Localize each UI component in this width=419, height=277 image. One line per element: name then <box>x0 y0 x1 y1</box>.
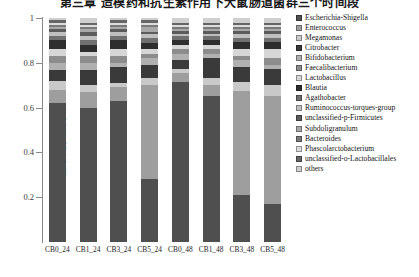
bar-segment <box>233 67 250 83</box>
bar-CB0_24 <box>49 18 66 242</box>
legend-swatch <box>296 15 302 21</box>
legend-swatch <box>296 55 302 61</box>
bar-segment <box>141 85 158 179</box>
y-tick-label: 0.6 <box>0 103 34 113</box>
bar-segment <box>264 204 281 242</box>
legend-swatch <box>296 105 302 111</box>
legend-item[interactable]: unclassified-p-Firmicutes <box>296 113 419 123</box>
y-tick-label: 0.8 <box>0 58 34 68</box>
y-tick-label: 0.4 <box>0 147 34 157</box>
legend-item[interactable]: Ruminococcus-torques-group <box>296 103 419 113</box>
legend-swatch <box>296 45 302 51</box>
bar-segment <box>141 179 158 242</box>
legend-item[interactable]: Faecalibacterium <box>296 63 419 73</box>
bar-segment <box>80 56 97 63</box>
bar-segment <box>49 103 66 242</box>
plot-area: 相对丰度（属水平） <box>42 18 288 242</box>
bar-segment <box>203 96 220 242</box>
legend-item[interactable]: Blautia <box>296 83 419 93</box>
bar-segment <box>80 92 97 108</box>
bar-segment <box>203 85 220 96</box>
bar-segment <box>80 85 97 92</box>
bar-segment <box>110 87 127 100</box>
legend-swatch <box>296 146 302 152</box>
bar-segment <box>49 70 66 81</box>
bar-segment <box>203 78 220 85</box>
bar-CB3_24 <box>110 18 127 242</box>
chart-title: 第三章 造模药和抗生素作用下大鼠肠道菌群三个时间段 <box>0 0 419 10</box>
bar-CB5_48 <box>264 18 281 242</box>
bar-segment <box>172 73 189 82</box>
bar-segment <box>233 49 250 56</box>
legend-swatch <box>296 75 302 81</box>
legend-swatch <box>296 25 302 31</box>
legend-swatch <box>296 95 302 101</box>
legend-item[interactable]: others <box>296 164 419 174</box>
legend-label: Subdoligranulum <box>305 124 358 134</box>
legend-label: Bacteroides <box>305 134 341 144</box>
x-axis-labels: CB0_24CB1_24CB3_24CB5_24CB0_48CB1_48CB3_… <box>42 245 288 259</box>
legend-item[interactable]: Bifidobacterium <box>296 53 419 63</box>
bar-segment <box>141 43 158 50</box>
bar-segment <box>233 60 250 67</box>
y-tick-label: 1 <box>0 13 34 23</box>
bar-segment <box>110 56 127 63</box>
bar-segment <box>264 42 281 49</box>
bar-CB0_48 <box>172 18 189 242</box>
legend-label: Faecalibacterium <box>305 63 357 73</box>
legend-item[interactable]: unclassified-o-Lactobacillales <box>296 154 419 164</box>
legend-label: Megamonas <box>305 33 342 43</box>
x-tick-label-CB3_48: CB3_48 <box>230 245 255 254</box>
bar-segment <box>172 54 189 61</box>
legend-item[interactable]: Megamonas <box>296 33 419 43</box>
bar-segment <box>141 58 158 65</box>
bar-segment <box>80 70 97 86</box>
legend-swatch <box>296 156 302 162</box>
x-tick-label-CB5_24: CB5_24 <box>137 245 162 254</box>
chart-legend: Escherichia-ShigellaEnterococcusMegamona… <box>296 13 419 174</box>
bar-segment <box>264 85 281 96</box>
bar-segment <box>233 42 250 49</box>
legend-item[interactable]: Phascolarctobacterium <box>296 144 419 154</box>
bar-segment <box>110 67 127 83</box>
legend-label: Bifidobacterium <box>305 53 355 63</box>
legend-label: others <box>305 164 324 174</box>
legend-label: Agathobacter <box>305 93 346 103</box>
legend-item[interactable]: Enterococcus <box>296 23 419 33</box>
legend-label: Lactobacillus <box>305 73 346 83</box>
bar-CB3_48 <box>233 18 250 242</box>
legend-item[interactable]: Citrobacter <box>296 43 419 53</box>
x-tick-label-CB5_48: CB5_48 <box>260 245 285 254</box>
bar-segment <box>203 58 220 78</box>
legend-label: Ruminococcus-torques-group <box>305 103 395 113</box>
bar-segment <box>172 82 189 242</box>
bar-CB1_48 <box>203 18 220 242</box>
bar-segment <box>49 56 66 63</box>
legend-item[interactable]: Escherichia-Shigella <box>296 13 419 23</box>
legend-item[interactable]: Bacteroides <box>296 134 419 144</box>
bar-segment <box>233 91 250 195</box>
bar-segment <box>233 82 250 91</box>
bar-segment <box>264 69 281 85</box>
bar-segment <box>80 63 97 70</box>
x-tick-label-CB3_24: CB3_24 <box>107 245 132 254</box>
legend-item[interactable]: Agathobacter <box>296 93 419 103</box>
legend-item[interactable]: Subdoligranulum <box>296 124 419 134</box>
legend-swatch <box>296 65 302 71</box>
x-tick-label-CB1_48: CB1_48 <box>199 245 224 254</box>
legend-swatch <box>296 115 302 121</box>
legend-swatch <box>296 136 302 142</box>
legend-swatch <box>296 126 302 132</box>
legend-label: Phascolarctobacterium <box>305 144 374 154</box>
bar-segment <box>141 65 158 78</box>
bar-segment <box>172 60 189 69</box>
legend-label: Blautia <box>305 83 327 93</box>
bar-segment <box>49 90 66 103</box>
legend-swatch <box>296 35 302 41</box>
legend-label: Citrobacter <box>305 43 339 53</box>
bar-segment <box>264 58 281 65</box>
bar-segment <box>110 40 127 49</box>
legend-item[interactable]: Lactobacillus <box>296 73 419 83</box>
bar-CB5_24 <box>141 18 158 242</box>
bar-segment <box>110 49 127 56</box>
